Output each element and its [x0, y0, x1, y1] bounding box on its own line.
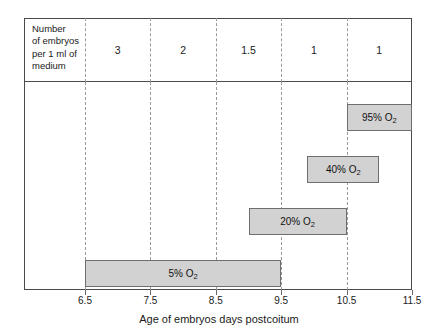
gridline-9.5: [281, 82, 282, 290]
bar-20o2: 20% O2: [249, 208, 347, 235]
header-label-line-2: of embryos: [32, 35, 79, 46]
header-label-line-4: medium: [32, 60, 66, 71]
header-row-label: Number of embryos per 1 ml of medium: [32, 23, 90, 73]
x-tick-label-9.5: 9.5: [274, 295, 288, 306]
header-gridline-8.5: [216, 18, 217, 82]
header-gridline-6.5: [85, 18, 86, 82]
x-tick-label-11.5: 11.5: [403, 295, 422, 306]
header-cell-7.5-8.5: 2: [150, 18, 215, 82]
bar-40o2: 40% O2: [307, 156, 379, 183]
x-tick-label-6.5: 6.5: [78, 295, 92, 306]
header-cell-8.5-9.5: 1.5: [216, 18, 281, 82]
header-gridline-7.5: [150, 18, 151, 82]
header-label-line-3: per 1 ml of: [32, 48, 77, 59]
gridline-8.5: [216, 82, 217, 290]
header-cell-10.5-11.5: 1: [347, 18, 412, 82]
header-gridline-9.5: [281, 18, 282, 82]
x-tick-label-7.5: 7.5: [143, 295, 157, 306]
header-gridline-10.5: [347, 18, 348, 82]
bar-5o2: 5% O2: [85, 260, 281, 287]
plot-area: 5% O220% O240% O295% O2: [24, 82, 412, 290]
x-tick-label-10.5: 10.5: [337, 295, 356, 306]
gridline-7.5: [150, 82, 151, 290]
x-axis-title: Age of embryos days postcoitum: [0, 313, 438, 325]
header-cell-9.5-10.5: 1: [281, 18, 346, 82]
x-tick-label-8.5: 8.5: [209, 295, 223, 306]
header-cell-6.5-7.5: 3: [85, 18, 150, 82]
gridline-6.5: [85, 82, 86, 290]
bar-95o2: 95% O2: [347, 104, 412, 131]
header-label-line-1: Number: [32, 23, 66, 34]
figure-container: Number of embryos per 1 ml of medium 321…: [0, 0, 438, 333]
